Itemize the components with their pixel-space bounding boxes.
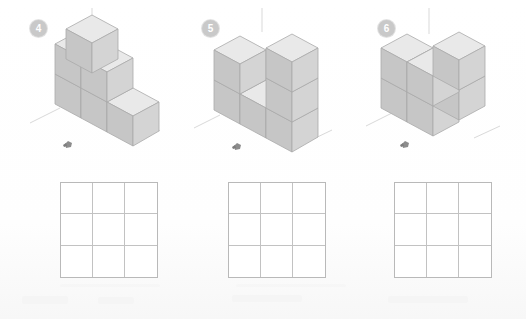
answer-grid-6[interactable] — [394, 182, 492, 278]
grid-cell[interactable] — [93, 214, 125, 245]
figure-panel-6: 6 — [348, 0, 523, 319]
grid-cell[interactable] — [395, 214, 427, 245]
cube-faces-4 — [55, 15, 159, 146]
grid-cell[interactable] — [229, 246, 261, 277]
grid-cell[interactable] — [427, 214, 459, 245]
grid-cell[interactable] — [125, 214, 157, 245]
grid-cell[interactable] — [229, 214, 261, 245]
grid-cell[interactable] — [229, 183, 261, 214]
grid-cell[interactable] — [93, 246, 125, 277]
answer-grid-5-wrap — [228, 182, 326, 278]
grid-cell[interactable] — [261, 214, 293, 245]
grid-cell[interactable] — [459, 183, 491, 214]
grid-cell[interactable] — [293, 246, 325, 277]
grid-cell[interactable] — [93, 183, 125, 214]
answer-grid-4[interactable] — [60, 182, 158, 278]
isometric-cube-stack-4 — [0, 0, 175, 165]
grid-cell[interactable] — [61, 246, 93, 277]
cube-stack-svg-5 — [172, 0, 347, 165]
grid-cell[interactable] — [293, 183, 325, 214]
grid-cell[interactable] — [427, 183, 459, 214]
cube-stack-svg-6 — [348, 0, 523, 165]
observer-marker-icon — [400, 140, 411, 149]
grid-cell[interactable] — [395, 246, 427, 277]
answer-grid-6-wrap — [394, 182, 492, 278]
cube-stack-svg-4 — [0, 0, 175, 165]
cube-faces-6 — [381, 32, 485, 136]
grid-cell[interactable] — [261, 246, 293, 277]
figure-panel-5: 5 — [172, 0, 347, 319]
answer-grid-5[interactable] — [228, 182, 326, 278]
grid-cell[interactable] — [293, 214, 325, 245]
page-root: 4 — [0, 0, 526, 319]
observer-marker-icon — [232, 142, 243, 151]
grid-cell[interactable] — [61, 214, 93, 245]
grid-cell[interactable] — [125, 246, 157, 277]
observer-marker-icon — [63, 140, 74, 149]
grid-cell[interactable] — [61, 183, 93, 214]
cube-faces-5 — [214, 34, 318, 152]
grid-cell[interactable] — [459, 214, 491, 245]
grid-cell[interactable] — [125, 183, 157, 214]
isometric-cube-stack-6 — [348, 0, 523, 165]
grid-cell[interactable] — [427, 246, 459, 277]
grid-cell[interactable] — [395, 183, 427, 214]
grid-cell[interactable] — [261, 183, 293, 214]
figure-panel-4: 4 — [0, 0, 175, 319]
grid-cell[interactable] — [459, 246, 491, 277]
isometric-cube-stack-5 — [172, 0, 347, 165]
answer-grid-4-wrap — [60, 182, 158, 278]
